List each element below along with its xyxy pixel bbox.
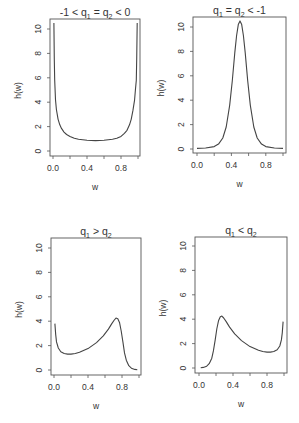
x-tick-label: 0.8 — [261, 380, 273, 390]
y-tick-label: 2 — [34, 343, 44, 348]
y-tick-label: 8 — [34, 270, 44, 275]
y-tick-label: 8 — [33, 51, 43, 56]
title-subscript: 2 — [253, 231, 257, 238]
title-text: = q — [223, 4, 241, 16]
title-text: = q — [91, 6, 109, 18]
x-tick-label: 0.0 — [193, 380, 205, 390]
x-tick-label: 0.8 — [260, 160, 272, 170]
x-tick-label: 0.4 — [82, 382, 94, 392]
x-tick-label: 0.4 — [227, 380, 239, 390]
title-text: < -1 — [245, 4, 266, 16]
y-tick-label: 8 — [178, 268, 188, 273]
x-axis-label: w — [235, 179, 243, 189]
panel-top-left: 0.00.40.80246810wh(w)-1 < q1 = q2 < 0 — [13, 6, 140, 192]
plot-frame — [50, 19, 140, 156]
y-tick-label: 4 — [34, 319, 44, 324]
y-tick-label: 10 — [33, 24, 43, 34]
y-tick-label: 4 — [178, 317, 188, 322]
x-tick-label: 0.4 — [225, 160, 237, 170]
y-tick-label: 0 — [34, 367, 44, 372]
figure-2x2-h-of-w: 0.00.40.80246810wh(w)-1 < q1 = q2 < 0 0.… — [0, 0, 299, 423]
y-tick-label: 10 — [178, 241, 188, 251]
plot-frame — [193, 17, 286, 153]
panel-title: q1 < q2 — [225, 224, 257, 238]
x-tick-label: 0.0 — [191, 160, 203, 170]
y-tick-label: 4 — [176, 98, 186, 103]
y-tick-label: 0 — [33, 148, 43, 153]
x-tick-label: 0.0 — [47, 163, 59, 173]
x-axis-label: w — [92, 401, 100, 411]
density-curve — [197, 21, 283, 148]
y-tick-label: 6 — [178, 292, 188, 297]
y-tick-label: 6 — [34, 294, 44, 299]
panel-bottom-left: 0.00.40.80246810wh(w)q1 > q2 — [14, 225, 141, 411]
y-axis-label: h(w) — [158, 300, 168, 317]
title-text: -1 < q — [60, 6, 87, 18]
title-text: < 0 — [112, 6, 130, 18]
y-tick-label: 6 — [176, 73, 186, 78]
plot-frame — [51, 238, 141, 375]
y-tick-label: 10 — [34, 243, 44, 253]
density-curve — [55, 318, 137, 370]
y-axis-label: h(w) — [156, 80, 166, 97]
y-tick-label: 0 — [178, 365, 188, 370]
title-subscript: 2 — [108, 232, 112, 239]
y-tick-label: 2 — [178, 341, 188, 346]
y-tick-label: 2 — [33, 124, 43, 129]
y-tick-label: 8 — [176, 49, 186, 54]
panel-bottom-right: 0.00.40.80246810wh(w)q1 < q2 — [158, 224, 287, 409]
y-axis-label: h(w) — [13, 82, 23, 99]
y-tick-label: 6 — [33, 75, 43, 80]
panel-title: q1 = q2 < -1 — [213, 4, 266, 18]
x-axis-label: w — [91, 182, 99, 192]
panel-title: -1 < q1 = q2 < 0 — [60, 6, 131, 20]
y-axis-label: h(w) — [14, 301, 24, 318]
title-text: < q — [235, 224, 253, 236]
density-curve — [54, 23, 137, 141]
x-tick-label: 0.8 — [115, 163, 127, 173]
panel-title: q1 > q2 — [80, 225, 112, 239]
y-tick-label: 4 — [33, 100, 43, 105]
title-text: > q — [90, 225, 108, 237]
x-tick-label: 0.8 — [116, 382, 128, 392]
panel-top-right: 0.00.40.80246810wh(w)q1 = q2 < -1 — [156, 4, 286, 189]
y-tick-label: 2 — [176, 122, 186, 127]
y-tick-label: 0 — [176, 146, 186, 151]
y-tick-label: 10 — [176, 22, 186, 32]
x-tick-label: 0.4 — [81, 163, 93, 173]
density-curve — [201, 316, 283, 368]
x-tick-label: 0.0 — [48, 382, 60, 392]
plot-frame — [195, 237, 287, 373]
x-axis-label: w — [237, 399, 245, 409]
